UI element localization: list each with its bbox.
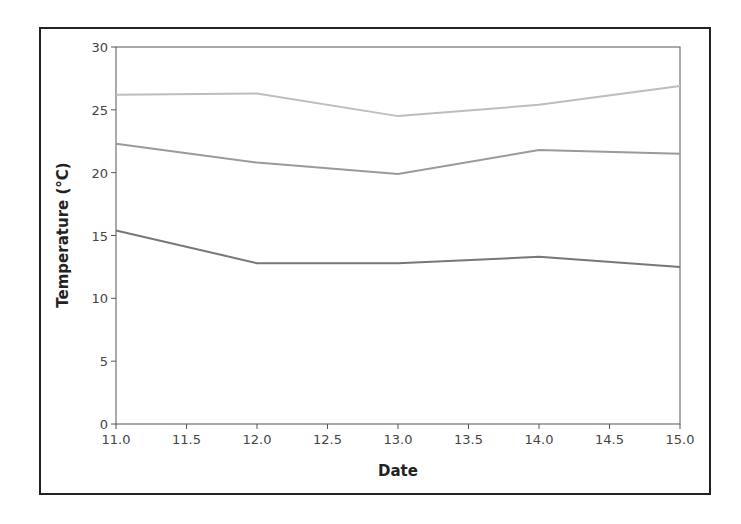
- line-series-1: [116, 86, 680, 116]
- y-tick-label: 15: [91, 229, 108, 244]
- y-tick-label: 0: [100, 417, 108, 432]
- line-series-2: [116, 144, 680, 174]
- x-tick-label: 11.5: [172, 432, 201, 447]
- x-tick-label: 13.0: [384, 432, 413, 447]
- y-axis-label: Temperature (°C): [54, 162, 72, 307]
- y-axis: 051015202530: [91, 40, 116, 432]
- plot-border: [116, 47, 680, 424]
- y-tick-label: 5: [100, 354, 108, 369]
- x-tick-label: 14.5: [595, 432, 624, 447]
- plot-area: [116, 47, 680, 424]
- y-tick-label: 10: [91, 291, 108, 306]
- x-tick-label: 12.5: [313, 432, 342, 447]
- y-tick-label: 25: [91, 103, 108, 118]
- line-chart: 11.011.512.012.513.013.514.014.515.0 051…: [0, 0, 741, 524]
- y-tick-label: 30: [91, 40, 108, 55]
- x-tick-label: 15.0: [666, 432, 695, 447]
- series-layer: [116, 86, 680, 267]
- x-tick-label: 14.0: [525, 432, 554, 447]
- x-tick-label: 13.5: [454, 432, 483, 447]
- x-axis: 11.011.512.012.513.013.514.014.515.0: [102, 424, 695, 447]
- x-tick-label: 11.0: [102, 432, 131, 447]
- x-axis-label: Date: [378, 462, 418, 480]
- y-tick-label: 20: [91, 166, 108, 181]
- x-tick-label: 12.0: [243, 432, 272, 447]
- line-series-3: [116, 230, 680, 266]
